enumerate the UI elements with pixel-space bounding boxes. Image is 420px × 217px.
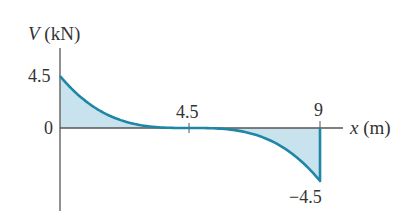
y-tick-label-neg-4-5: −4.5 <box>289 187 322 207</box>
shear-force-diagram: V (kN) 4.5 0 −4.5 4.5 9 x (m) <box>0 0 420 217</box>
y-tick-label-0: 0 <box>44 118 53 138</box>
y-axis-label: V (kN) <box>28 23 80 45</box>
x-tick-label-9: 9 <box>314 100 323 120</box>
y-tick-label-4-5: 4.5 <box>28 66 51 86</box>
x-tick-label-4-5: 4.5 <box>176 102 199 122</box>
x-axis-label: x (m) <box>349 117 391 139</box>
